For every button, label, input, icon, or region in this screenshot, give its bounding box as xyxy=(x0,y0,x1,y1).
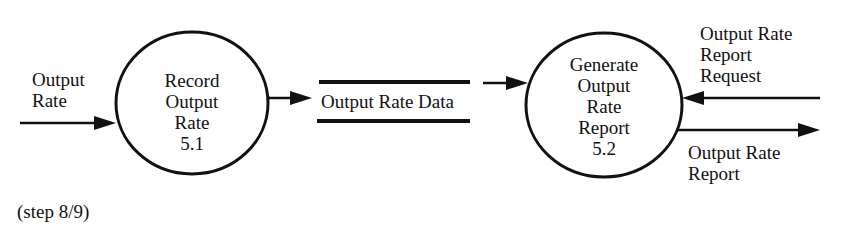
flow-label-report-request: Output Rate Report Request xyxy=(700,23,792,86)
process-5-2-line: Generate xyxy=(544,54,664,75)
process-5-2-number: 5.2 xyxy=(544,138,664,159)
flow-label-line: Output Rate xyxy=(688,142,780,163)
flow-label-line: Output xyxy=(32,69,85,90)
process-5-1-number: 5.1 xyxy=(142,133,242,154)
arrow-input-output-rate xyxy=(20,116,116,130)
flow-label-line: Output Rate xyxy=(700,23,792,44)
step-caption: (step 8/9) xyxy=(17,201,89,222)
arrow-report-request xyxy=(682,91,820,105)
process-5-1-line: Record xyxy=(142,70,242,91)
process-5-2-label: Generate Output Rate Report 5.2 xyxy=(544,54,664,159)
flow-label-line: Report xyxy=(700,44,792,65)
arrow-report-output xyxy=(676,123,820,137)
flow-label-line: Rate xyxy=(32,90,85,111)
flow-label-output-rate: Output Rate xyxy=(32,69,85,111)
process-5-1-line: Rate xyxy=(142,112,242,133)
data-store-label: Output Rate Data xyxy=(321,91,454,112)
process-5-2-line: Report xyxy=(544,117,664,138)
flow-label-line: Request xyxy=(700,65,792,86)
arrow-store-to-5-2 xyxy=(483,76,528,90)
process-5-1-line: Output xyxy=(142,91,242,112)
flow-label-line: Report xyxy=(688,163,780,184)
process-5-2-line: Output xyxy=(544,75,664,96)
process-5-1-label: Record Output Rate 5.1 xyxy=(142,70,242,154)
process-5-2-line: Rate xyxy=(544,96,664,117)
flow-label-report: Output Rate Report xyxy=(688,142,780,184)
arrow-5-1-to-store xyxy=(268,91,312,105)
